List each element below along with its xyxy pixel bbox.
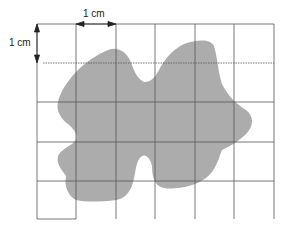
vertical-dimension-arrow (35, 24, 40, 63)
grid-diagram (0, 0, 283, 226)
vertical-scale-label: 1 cm (9, 37, 31, 48)
horizontal-dimension-arrow (76, 22, 116, 27)
horizontal-scale-label: 1 cm (83, 8, 105, 19)
